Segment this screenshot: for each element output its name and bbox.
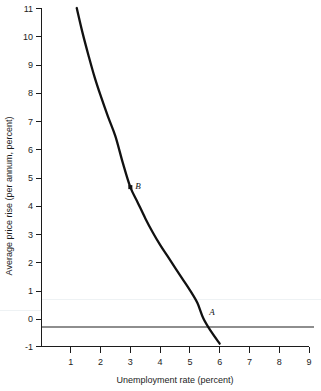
point-a-label: A	[208, 307, 215, 317]
x-tick-label: 8	[277, 357, 282, 367]
y-tick-label: 8	[28, 88, 33, 98]
y-tick-label: 1	[28, 286, 33, 296]
x-tick-label: 7	[247, 357, 252, 367]
y-tick-label: 7	[28, 117, 33, 127]
y-tick-label: 2	[28, 258, 33, 268]
x-axis-title: Unemployment rate (percent)	[116, 375, 233, 385]
point-b-marker	[128, 185, 132, 189]
x-tick-label: 9	[306, 357, 311, 367]
phillips-curve-chart: 11 10 9 8 7 6 5 4 3 2 1 0 -1	[0, 0, 321, 391]
chart-background	[0, 0, 321, 391]
x-tick-label: 3	[128, 357, 133, 367]
x-tick-label: 5	[187, 357, 192, 367]
y-tick-label: 3	[28, 230, 33, 240]
y-tick-label: 5	[28, 173, 33, 183]
x-tick-label: 6	[217, 357, 222, 367]
y-tick-label: 6	[28, 145, 33, 155]
x-tick-label: 1	[68, 357, 73, 367]
chart-canvas: 11 10 9 8 7 6 5 4 3 2 1 0 -1	[0, 0, 321, 391]
y-tick-label: 9	[28, 60, 33, 70]
x-tick-label: 2	[98, 357, 103, 367]
y-tick-label: 10	[23, 32, 33, 42]
y-tick-label: 11	[24, 4, 33, 14]
point-b-label: B	[135, 181, 141, 191]
y-axis-title: Average price rise (per annum, percent)	[4, 117, 14, 276]
y-tick-label: 0	[28, 314, 33, 324]
x-tick-label: 4	[158, 357, 163, 367]
y-tick-label: -1	[25, 342, 33, 352]
y-tick-label: 4	[28, 201, 33, 211]
